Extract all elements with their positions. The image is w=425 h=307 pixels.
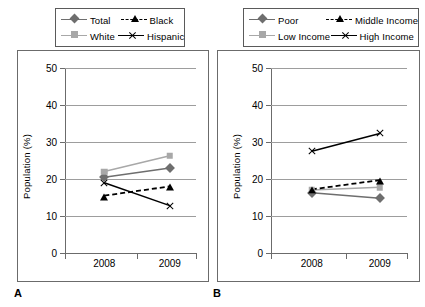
data-point-total-2009: [166, 164, 173, 171]
legend-sample: [61, 14, 87, 26]
y-tick-label: 20: [46, 174, 57, 185]
data-point-high-income-2008: [307, 147, 316, 156]
data-point-black-2008: [100, 192, 108, 199]
y-tick-label: 40: [252, 100, 263, 111]
legend-label: Low Income: [278, 31, 330, 42]
legend-label: Poor: [278, 15, 298, 26]
marker-cross-icon: [375, 129, 384, 138]
x-tick-label: 2008: [301, 258, 323, 269]
marker-cross-icon: [128, 31, 137, 40]
data-point-hispanic-2009: [165, 201, 174, 210]
legend-marker: [336, 15, 343, 22]
legend-label: Black: [150, 15, 174, 26]
marker-square-icon: [101, 168, 108, 175]
x-tick: [271, 253, 272, 259]
y-axis-label-a: Population (%): [21, 107, 32, 227]
marker-square-icon: [167, 152, 174, 159]
y-tick-label: 10: [46, 211, 57, 222]
marker-cross-icon: [307, 147, 316, 156]
legend-label: Middle Income: [355, 15, 418, 26]
panel-letter-b: B: [213, 287, 221, 299]
figure-root: TotalBlackWhiteHispanic Population (%) 0…: [0, 0, 425, 307]
data-point-low-income-2009: [377, 184, 384, 191]
data-point-white-2009: [167, 152, 174, 159]
y-tick-label: 40: [46, 100, 57, 111]
legend-row: TotalBlack: [61, 12, 180, 28]
y-tick-label: 50: [252, 63, 263, 74]
legend-item-hispanic: Hispanic: [118, 30, 180, 42]
marker-diamond-icon: [70, 14, 80, 24]
legend-item-high-income: High Income: [331, 30, 414, 42]
chart-panel-b: PoorMiddle IncomeLow IncomeHigh Income P…: [213, 0, 425, 307]
marker-triangle-icon: [100, 193, 108, 200]
x-tick-label: 2009: [159, 258, 181, 269]
legend-item-low-income: Low Income: [249, 30, 331, 42]
legend-item-black: Black: [121, 14, 181, 26]
legend-sample: [61, 30, 87, 42]
marker-square-icon: [71, 31, 78, 38]
panel-letter-a: A: [14, 287, 22, 299]
legend-marker: [71, 15, 78, 22]
gridline: [271, 253, 407, 254]
legend-marker: [128, 31, 135, 38]
legend-sample: [249, 14, 275, 26]
marker-cross-icon: [100, 178, 109, 187]
legend-sample: [331, 30, 357, 42]
marker-diamond-icon: [375, 193, 385, 203]
y-tick-label: 50: [46, 63, 57, 74]
x-tick-label: 2009: [369, 258, 391, 269]
marker-diamond-icon: [258, 14, 268, 24]
legend-marker: [259, 31, 266, 38]
marker-triangle-icon: [376, 178, 384, 185]
marker-cross-icon: [165, 201, 174, 210]
legend-label: Hispanic: [147, 31, 184, 42]
data-point-middle-income-2008: [308, 186, 316, 193]
legend-marker: [131, 15, 138, 22]
series-lines: [65, 68, 196, 253]
plot-frame-b: Population (%) 0102030405020082009: [217, 50, 420, 282]
legend-item-total: Total: [61, 14, 121, 26]
legend-item-poor: Poor: [249, 14, 326, 26]
data-point-black-2009: [166, 183, 174, 190]
y-tick-label: 20: [252, 174, 263, 185]
legend-marker: [71, 31, 78, 38]
plot-frame-a: Population (%) 0102030405020082009: [17, 50, 209, 282]
marker-triangle-icon: [308, 187, 316, 194]
data-point-white-2008: [101, 168, 108, 175]
legend-b: PoorMiddle IncomeLow IncomeHigh Income: [243, 8, 419, 47]
data-point-middle-income-2009: [376, 177, 384, 184]
gridline: [65, 253, 196, 254]
series-line-high-income: [312, 133, 380, 151]
legend-label: High Income: [360, 31, 414, 42]
legend-a: TotalBlackWhiteHispanic: [55, 8, 185, 47]
x-tick: [407, 253, 408, 259]
data-point-high-income-2009: [375, 129, 384, 138]
legend-row: WhiteHispanic: [61, 28, 180, 44]
x-tick-label: 2008: [93, 258, 115, 269]
series-line-poor: [312, 193, 380, 199]
legend-marker: [341, 31, 348, 38]
series-lines: [271, 68, 407, 253]
legend-item-white: White: [61, 30, 118, 42]
plot-area-b: 0102030405020082009: [271, 68, 407, 253]
legend-row: PoorMiddle Income: [249, 12, 414, 28]
data-point-poor-2009: [376, 195, 383, 202]
marker-diamond-icon: [165, 163, 175, 173]
y-tick-label: 10: [252, 211, 263, 222]
x-tick: [346, 253, 347, 259]
legend-item-middle-income: Middle Income: [326, 14, 414, 26]
legend-label: White: [90, 31, 115, 42]
y-tick-label: 0: [257, 248, 263, 259]
legend-row: Low IncomeHigh Income: [249, 28, 414, 44]
marker-square-icon: [377, 184, 384, 191]
legend-marker: [259, 15, 266, 22]
x-tick: [65, 253, 66, 259]
legend-sample: [249, 30, 275, 42]
y-tick-label: 0: [51, 248, 57, 259]
marker-cross-icon: [341, 31, 350, 40]
legend-sample: [121, 14, 147, 26]
x-tick: [137, 253, 138, 259]
y-tick-label: 30: [252, 137, 263, 148]
marker-triangle-icon: [131, 15, 139, 22]
legend-sample: [118, 30, 144, 42]
